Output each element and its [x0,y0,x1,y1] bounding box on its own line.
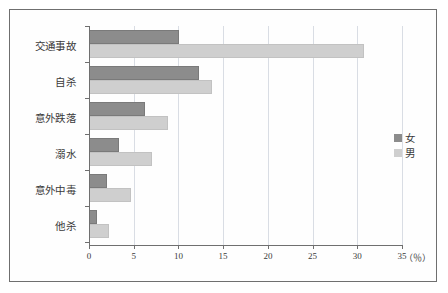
bar-male-4 [89,188,131,202]
axis-unit-label: （％） [404,251,431,264]
category-label-0: 交通事故 [35,38,76,53]
xtick-label-10: 10 [174,251,183,261]
ytick-3 [85,134,89,135]
chart-figure: 交通事故 自杀 意外跌落 溺水 意外中毒 他杀 0 5 10 15 20 25 … [0,0,448,293]
category-label-4: 意外中毒 [35,182,76,197]
legend-entry-female: 女 [394,130,415,145]
xtick-15 [223,245,224,249]
legend-entry-male: 男 [394,145,415,160]
xtick-label-5: 5 [131,251,136,261]
bar-female-5 [89,210,97,224]
bar-male-3 [89,152,152,166]
ytick-1 [85,62,89,63]
legend-label-female: 女 [405,130,415,145]
category-label-5: 他杀 [55,218,76,233]
xtick-label-25: 25 [308,251,317,261]
ytick-0 [85,26,89,27]
category-label-2: 意外跌落 [35,110,76,125]
ytick-4 [85,170,89,171]
gridline-15 [223,26,224,245]
gridline-25 [313,26,314,245]
legend-label-male: 男 [405,145,415,160]
legend-swatch-male-icon [394,149,402,157]
category-label-1: 自杀 [55,74,76,89]
bar-male-5 [89,224,109,238]
bar-male-2 [89,116,168,130]
chart-legend: 女 男 [394,130,415,160]
bar-female-2 [89,102,145,116]
category-label-3: 溺水 [55,146,76,161]
ytick-5 [85,206,89,207]
xtick-10 [178,245,179,249]
gridline-20 [268,26,269,245]
ytick-6 [85,242,89,243]
xtick-30 [357,245,358,249]
bar-female-3 [89,138,119,152]
xtick-label-15: 15 [219,251,228,261]
xtick-label-0: 0 [87,251,92,261]
xtick-label-30: 30 [353,251,362,261]
legend-swatch-female-icon [394,134,402,142]
xtick-0 [89,245,90,249]
bar-male-1 [89,80,212,94]
gridline-30 [357,26,358,245]
xtick-25 [313,245,314,249]
ytick-2 [85,98,89,99]
xtick-5 [134,245,135,249]
gridline-10 [178,26,179,245]
gridline-5 [134,26,135,245]
bar-female-0 [89,30,179,44]
bar-female-1 [89,66,199,80]
plot-area [89,26,402,245]
bar-female-4 [89,174,107,188]
xtick-label-20: 20 [263,251,272,261]
bar-male-0 [89,44,364,58]
xtick-20 [268,245,269,249]
category-axis-line [89,245,403,246]
value-axis-line [89,26,90,245]
xtick-35 [402,245,403,249]
